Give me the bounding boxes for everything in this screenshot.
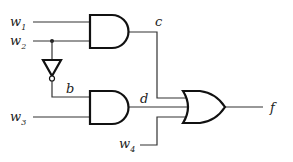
input-label-w4: w4 — [119, 136, 135, 154]
signal-label-b: b — [66, 81, 74, 96]
input-label-w3: w3 — [10, 109, 26, 127]
wire-c — [128, 32, 187, 98]
logic-circuit-diagram: w1 w2 w3 w4 b c d f — [0, 0, 293, 162]
input-label-w1: w1 — [10, 14, 26, 32]
signal-label-d: d — [140, 91, 148, 106]
input-label-w2: w2 — [10, 33, 26, 51]
or-gate — [183, 91, 225, 123]
and-gate-2 — [90, 91, 129, 124]
not-gate — [43, 60, 61, 76]
inverter-bubble — [50, 76, 55, 81]
and-gate-1 — [90, 15, 129, 48]
signal-label-c: c — [155, 14, 163, 29]
output-label-f: f — [269, 100, 277, 115]
wire-w4 — [140, 117, 187, 145]
